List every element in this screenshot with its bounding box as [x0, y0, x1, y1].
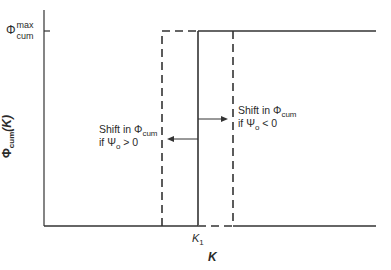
annotation-right: Shift in Φcum if Ψo < 0 — [238, 104, 297, 130]
x-axis-label: K — [208, 251, 217, 264]
annotation-text: Shift in Φ — [238, 104, 281, 116]
arrow-left-head — [167, 136, 174, 142]
x-tick-k1: K1 — [192, 232, 204, 245]
annotation-left: Shift in Φcum if Ψo > 0 — [99, 123, 158, 149]
y-max-label: Φ max cum — [6, 24, 38, 38]
annotation-text: < 0 — [259, 117, 277, 129]
annotation-text: if Ψ — [99, 136, 116, 148]
cum-subscript: cum — [17, 30, 34, 43]
step-function-diagram — [0, 0, 391, 270]
annotation-text: > 0 — [120, 136, 138, 148]
cum-subscript: cum — [7, 132, 16, 148]
phi-symbol: Φ — [6, 23, 16, 37]
arrow-right-head — [221, 116, 228, 122]
one-subscript: 1 — [199, 238, 203, 247]
annotation-text: Shift in Φ — [99, 123, 142, 135]
phi-symbol: Φ — [0, 148, 14, 158]
annotation-sub: cum — [142, 129, 157, 138]
annotation-text: if Ψ — [238, 117, 255, 129]
annotation-sub: cum — [281, 110, 296, 119]
k-argument: (K) — [0, 115, 14, 132]
y-axis-label: Φcum(K) — [1, 115, 14, 158]
